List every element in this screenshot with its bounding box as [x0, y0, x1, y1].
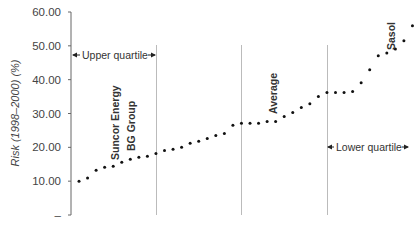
quartile-dividers — [157, 45, 328, 215]
data-point — [385, 51, 388, 54]
arrow-right-icon — [404, 145, 409, 150]
data-point — [206, 137, 209, 140]
y-tick-label: 10.00 — [32, 175, 61, 187]
data-point — [291, 111, 294, 114]
data-point — [120, 161, 123, 164]
y-tick-label: 60.00 — [32, 6, 61, 18]
data-point — [368, 68, 371, 71]
lower-quartile-label: Lower quartile — [336, 141, 402, 153]
data-point — [249, 122, 252, 125]
data-point — [197, 140, 200, 143]
upper-quartile-label: Upper quartile — [82, 49, 148, 61]
data-point — [95, 169, 98, 172]
data-point — [377, 54, 380, 57]
arrow-right-icon — [151, 53, 156, 58]
data-point — [402, 39, 405, 42]
y-axis: –10.0020.0030.0040.0050.0060.00 — [32, 6, 71, 221]
y-tick-label: 20.00 — [32, 141, 61, 153]
data-point — [334, 91, 337, 94]
data-point — [189, 142, 192, 145]
lower-quartile-annotation: Lower quartile — [327, 141, 409, 153]
data-point — [240, 122, 243, 125]
y-tick-label: 30.00 — [32, 108, 61, 120]
data-point — [283, 115, 286, 118]
data-point — [343, 91, 346, 94]
y-tick-label: – — [55, 209, 62, 221]
arrow-left-icon — [72, 53, 77, 58]
data-point — [163, 149, 166, 152]
data-point — [86, 177, 89, 180]
label-sasol: Sasol — [385, 22, 397, 50]
data-point — [172, 148, 175, 151]
data-point — [180, 146, 183, 149]
data-point — [146, 155, 149, 158]
data-point — [317, 95, 320, 98]
data-point — [257, 122, 260, 125]
y-tick-label: 40.00 — [32, 74, 61, 86]
data-point — [325, 91, 328, 94]
y-tick-label: 50.00 — [32, 40, 61, 52]
data-point — [112, 165, 115, 168]
data-point — [274, 120, 277, 123]
data-point — [231, 124, 234, 127]
data-point — [300, 106, 303, 109]
data-point — [360, 81, 363, 84]
label-suncor-energy: Suncor Energy — [109, 85, 121, 160]
data-point — [154, 152, 157, 155]
data-point — [411, 24, 414, 27]
data-point — [223, 132, 226, 135]
data-point — [137, 156, 140, 159]
upper-quartile-annotation: Upper quartile — [72, 49, 156, 61]
data-point — [351, 90, 354, 93]
label-bg-group: BG Group — [125, 101, 137, 151]
data-point — [214, 134, 217, 137]
data-point — [78, 180, 81, 183]
data-point — [129, 158, 132, 161]
y-axis-title: Risk (1998–2000) (%) — [9, 59, 21, 166]
label-average: Average — [267, 73, 279, 114]
data-point — [266, 120, 269, 123]
risk-scatter-chart: –10.0020.0030.0040.0050.0060.00 Risk (19… — [0, 0, 417, 225]
data-point — [308, 102, 311, 105]
data-point — [103, 166, 106, 169]
